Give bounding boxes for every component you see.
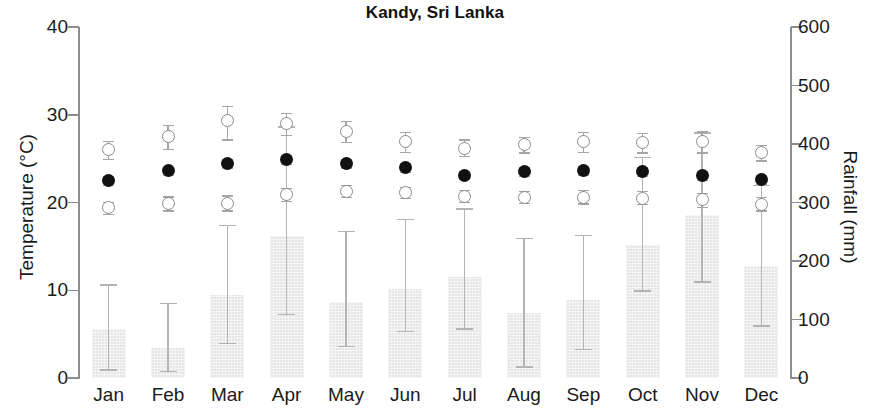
temperature-extreme-marker xyxy=(696,135,709,148)
rainfall-error-cap-lower xyxy=(338,346,355,347)
rainfall-error-cap-upper xyxy=(456,208,473,209)
y-axis-right-tick-label: 600 xyxy=(798,17,858,36)
y-axis-left-tick xyxy=(68,114,79,116)
temperature-extreme-marker xyxy=(340,125,353,138)
x-axis-month-label: Feb xyxy=(140,384,196,406)
y-axis-left-tick-label: 10 xyxy=(22,280,68,299)
x-axis-month-label: Aug xyxy=(496,384,552,406)
temperature-extreme-marker xyxy=(340,185,353,198)
temperature-error-cap-lower xyxy=(103,214,114,215)
y-axis-right-tick-label: 100 xyxy=(798,310,858,329)
mean-temperature-marker xyxy=(340,157,353,170)
y-axis-left-tick xyxy=(68,202,79,204)
x-axis-month-label: Jan xyxy=(81,384,137,406)
y-axis-left-tick-label: 40 xyxy=(22,17,68,36)
temperature-extreme-marker xyxy=(518,191,531,204)
temperature-error-cap-upper xyxy=(281,113,292,114)
temperature-extreme-marker xyxy=(755,198,768,211)
rainfall-error-cap-lower xyxy=(219,343,236,344)
rainfall-error-cap-lower xyxy=(160,371,177,372)
temperature-extreme-marker xyxy=(577,191,590,204)
chart-title: Kandy, Sri Lanka xyxy=(0,3,870,23)
rainfall-error-cap-lower xyxy=(516,366,533,367)
mean-temperature-marker xyxy=(755,173,768,186)
rainfall-error-cap-upper xyxy=(100,284,117,285)
temperature-error-cap-upper xyxy=(163,125,174,126)
rainfall-error-bar xyxy=(583,235,584,349)
temperature-error-cap-lower xyxy=(222,139,233,140)
rainfall-error-cap-lower xyxy=(694,281,711,282)
rainfall-error-cap-lower xyxy=(278,314,295,315)
temperature-error-cap-lower xyxy=(637,152,648,153)
rainfall-error-bar xyxy=(464,208,465,328)
mean-temperature-marker xyxy=(696,169,709,182)
temperature-extreme-marker xyxy=(696,193,709,206)
mean-temperature-marker xyxy=(221,157,234,170)
temperature-error-cap-lower xyxy=(519,152,530,153)
x-axis-month-label: Jul xyxy=(437,384,493,406)
temperature-error-cap-upper xyxy=(459,139,470,140)
temperature-error-cap-lower xyxy=(697,152,708,153)
climate-chart: Kandy, Sri Lanka Temperature (°C) Rainfa… xyxy=(0,0,870,412)
y-axis-left-tick-label: 20 xyxy=(22,193,68,212)
x-axis-month-label: Nov xyxy=(674,384,730,406)
temperature-extreme-marker xyxy=(755,146,768,159)
rainfall-error-cap-lower xyxy=(575,349,592,350)
temperature-error-cap-lower xyxy=(756,160,767,161)
rainfall-error-cap-lower xyxy=(634,290,651,291)
mean-temperature-marker xyxy=(399,161,412,174)
rainfall-error-bar xyxy=(167,303,168,371)
temperature-extreme-marker xyxy=(518,138,531,151)
temperature-error-cap-lower xyxy=(163,210,174,211)
rainfall-error-cap-lower xyxy=(456,328,473,329)
temperature-error-cap-upper xyxy=(103,141,114,142)
y-axis-right-tick-label: 500 xyxy=(798,76,858,95)
temperature-error-cap-lower xyxy=(281,135,292,136)
rainfall-error-cap-lower xyxy=(753,325,770,326)
temperature-error-cap-upper xyxy=(341,121,352,122)
rainfall-error-cap-lower xyxy=(397,331,414,332)
rainfall-error-bar xyxy=(227,225,228,343)
temperature-error-cap-upper xyxy=(637,133,648,134)
temperature-extreme-marker xyxy=(458,190,471,203)
temperature-extreme-marker xyxy=(221,114,234,127)
temperature-error-cap-upper xyxy=(222,106,233,107)
rainfall-error-bar xyxy=(108,284,109,369)
temperature-error-cap-lower xyxy=(222,210,233,211)
rainfall-error-bar xyxy=(523,238,524,367)
plot-area xyxy=(79,27,771,378)
mean-temperature-marker xyxy=(458,169,471,182)
x-axis-month-label: Jun xyxy=(377,384,433,406)
y-axis-left-tick-label: 30 xyxy=(22,105,68,124)
temperature-error-cap-upper xyxy=(400,132,411,133)
temperature-extreme-marker xyxy=(162,130,175,143)
mean-temperature-marker xyxy=(577,164,590,177)
x-axis-month-label: Mar xyxy=(199,384,255,406)
rainfall-error-cap-upper xyxy=(516,238,533,239)
temperature-error-cap-lower xyxy=(103,159,114,160)
temperature-extreme-marker xyxy=(162,197,175,210)
rainfall-error-cap-upper xyxy=(397,219,414,220)
temperature-extreme-marker xyxy=(221,197,234,210)
temperature-extreme-marker xyxy=(636,192,649,205)
temperature-error-cap-upper xyxy=(578,132,589,133)
rainfall-error-bar xyxy=(345,231,346,346)
y-axis-left-tick-label: 0 xyxy=(22,368,68,387)
rainfall-error-bar xyxy=(405,219,406,331)
temperature-error-cap-lower xyxy=(578,152,589,153)
y-axis-right-tick-label: 200 xyxy=(798,251,858,270)
temperature-error-cap-lower xyxy=(459,156,470,157)
x-axis-month-label: Apr xyxy=(259,384,315,406)
x-axis-month-label: Dec xyxy=(733,384,789,406)
temperature-extreme-marker xyxy=(458,142,471,155)
mean-temperature-marker xyxy=(518,165,531,178)
temperature-error-cap-lower xyxy=(697,207,708,208)
rainfall-error-cap-upper xyxy=(160,303,177,304)
x-axis-month-label: May xyxy=(318,384,374,406)
y-axis-left-tick xyxy=(68,290,79,292)
temperature-error-cap-lower xyxy=(400,152,411,153)
rainfall-error-cap-upper xyxy=(338,231,355,232)
rainfall-error-cap-upper xyxy=(219,225,236,226)
mean-temperature-marker xyxy=(162,164,175,177)
y-axis-left-tick xyxy=(68,26,79,28)
